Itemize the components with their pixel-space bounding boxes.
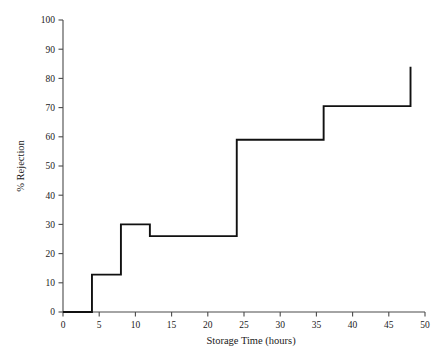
x-tick-label: 25 [239,320,249,330]
x-tick-label: 45 [384,320,394,330]
x-axis-title: Storage Time (hours) [206,335,296,347]
x-tick-label: 10 [131,320,141,330]
y-tick-label: 20 [46,249,56,259]
chart-figure: 0102030405060708090100 05101520253035404… [0,0,438,358]
y-tick-label: 60 [46,132,56,142]
y-tick-label: 80 [46,74,56,84]
x-tick-label: 40 [348,320,358,330]
x-tick-label: 50 [420,320,430,330]
y-tick-label: 70 [46,103,56,113]
y-tick-label: 0 [50,307,55,317]
step-chart: 0102030405060708090100 05101520253035404… [0,0,438,358]
y-tick-label: 50 [46,161,56,171]
y-tick-label: 10 [46,278,56,288]
data-series-group [63,67,411,312]
y-tick-label: 90 [46,45,56,55]
y-tick-label: 30 [46,220,56,230]
x-tick-label: 5 [97,320,102,330]
data-step-line [63,67,411,312]
x-axis: 05101520253035404550 [61,312,430,330]
y-tick-label: 40 [46,191,56,201]
y-tick-label: 100 [41,15,56,25]
x-tick-label: 30 [275,320,285,330]
y-axis-title: % Rejection [15,139,26,191]
x-tick-label: 20 [203,320,213,330]
y-axis: 0102030405060708090100 [41,15,63,317]
x-tick-label: 15 [167,320,177,330]
x-tick-label: 0 [61,320,66,330]
x-tick-label: 35 [312,320,322,330]
